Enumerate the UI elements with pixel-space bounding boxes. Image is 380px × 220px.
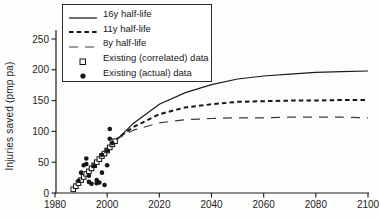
x-tick-label: 2000: [96, 199, 119, 210]
actual-data-point: [100, 170, 105, 175]
y-tick-label: 100: [32, 126, 49, 137]
legend-label: 16y half-life: [103, 8, 152, 19]
actual-data-point: [102, 183, 107, 188]
y-tick-label: 150: [32, 95, 49, 106]
x-tick-label: 2100: [357, 199, 380, 210]
legend-box: 16y half-life11y half-life8y half-lifeEx…: [62, 4, 212, 82]
curve-dash-short: [115, 100, 368, 141]
actual-data-point: [107, 127, 112, 132]
y-axis-title: Injuries saved (pmp pa): [4, 61, 15, 170]
legend-entry: Existing (correlated) data: [63, 51, 211, 65]
actual-data-point: [84, 156, 89, 161]
actual-data-point: [107, 136, 112, 141]
actual-data-point: [76, 178, 81, 183]
legend-circle-sample: [80, 74, 85, 79]
actual-data-point: [87, 173, 92, 178]
legend-label: 8y half-life: [103, 37, 146, 48]
y-tick-label: 250: [32, 34, 49, 45]
legend-dash-long-symbol: [68, 38, 98, 48]
legend-label: 11y half-life: [103, 23, 151, 34]
actual-data-point: [97, 180, 102, 185]
x-tick-label: 1980: [44, 199, 67, 210]
x-tick-label: 2020: [148, 199, 171, 210]
actual-data-point: [105, 163, 110, 168]
legend-entry: 16y half-life: [63, 7, 211, 21]
curve-dash-long: [115, 117, 368, 140]
y-tick-label: 0: [43, 188, 49, 199]
legend-square-sample: [80, 59, 86, 65]
legend-solid-symbol: [68, 9, 98, 19]
legend-entry: 8y half-life: [63, 36, 211, 50]
actual-data-point: [84, 162, 89, 167]
legend-filled-circle-symbol: [68, 67, 98, 77]
actual-data-point: [105, 148, 110, 153]
actual-data-point: [79, 170, 84, 175]
y-tick-label: 50: [38, 157, 50, 168]
actual-data-point: [89, 181, 94, 186]
actual-data-point: [110, 141, 115, 146]
legend-entry: Existing (actual) data: [63, 65, 211, 79]
y-tick-label: 200: [32, 64, 49, 75]
x-tick-label: 2060: [253, 199, 276, 210]
legend-entry: 11y half-life: [63, 21, 211, 35]
legend-open-square-symbol: [68, 53, 98, 63]
x-tick-label: 2040: [200, 199, 223, 210]
legend-label: Existing (actual) data: [103, 67, 192, 78]
chart-figure: 1980200020202040206020802100050100150200…: [0, 0, 380, 220]
legend-dash-short-symbol: [68, 23, 98, 33]
x-tick-label: 2080: [305, 199, 328, 210]
legend-label: Existing (correlated) data: [103, 52, 209, 63]
data-series: [71, 71, 368, 192]
actual-data-point: [92, 164, 97, 169]
actual-data-point: [100, 153, 105, 158]
